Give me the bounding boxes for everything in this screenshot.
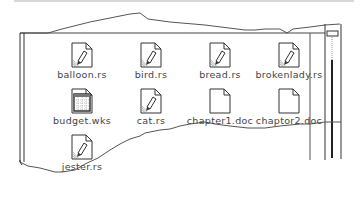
- paint-doc-icon: [140, 88, 162, 114]
- spreadsheet-doc-icon: [71, 88, 93, 114]
- file-name: chapter1.doc: [180, 115, 260, 126]
- paint-doc-icon: [71, 134, 93, 160]
- file-item[interactable]: bird.rs: [111, 42, 191, 80]
- file-name: balloon.rs: [42, 69, 122, 80]
- paint-doc-icon: [209, 42, 231, 68]
- file-item[interactable]: brokenlady.rs: [249, 42, 329, 80]
- blank-doc-icon: [209, 88, 231, 114]
- blank-doc-icon: [278, 88, 300, 114]
- file-item[interactable]: balloon.rs: [42, 42, 122, 80]
- file-name: jester.rs: [42, 161, 122, 172]
- file-item[interactable]: chaptor2.doc: [249, 88, 329, 126]
- file-name: brokenlady.rs: [249, 69, 329, 80]
- file-name: chaptor2.doc: [249, 115, 329, 126]
- file-name: bread.rs: [180, 69, 260, 80]
- file-name: cat.rs: [111, 115, 191, 126]
- paint-doc-icon: [278, 42, 300, 68]
- file-item[interactable]: bread.rs: [180, 42, 260, 80]
- file-icon-grid: balloon.rs bird.rs bread.rs brok: [0, 0, 361, 201]
- paint-doc-icon: [140, 42, 162, 68]
- paint-doc-icon: [71, 42, 93, 68]
- file-item[interactable]: cat.rs: [111, 88, 191, 126]
- file-item[interactable]: chapter1.doc: [180, 88, 260, 126]
- file-item[interactable]: budget.wks: [42, 88, 122, 126]
- file-item[interactable]: jester.rs: [42, 134, 122, 172]
- file-name: budget.wks: [42, 115, 122, 126]
- file-name: bird.rs: [111, 69, 191, 80]
